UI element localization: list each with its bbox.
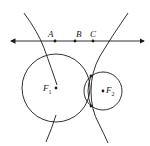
label-f2: F2 [106,86,115,97]
diagram-canvas: A B C F1 F2 [0,0,150,146]
label-b: B [76,30,82,39]
label-c: C [90,30,96,39]
point-c [92,40,95,43]
intersection-top [90,75,93,78]
hyperbola-left-branch [24,13,57,85]
point-a [54,40,57,43]
hyperbola-right-branch [91,13,128,143]
focus-f1 [55,87,58,90]
label-f1-subscript: 1 [49,89,52,95]
intersection-bottom [90,105,93,108]
point-b [74,40,77,43]
focus-f2 [102,90,105,93]
hyperbola-left-branch-lower [46,115,56,142]
diagram-svg [0,0,150,146]
label-f1: F1 [43,84,52,95]
label-f2-subscript: 2 [112,91,115,97]
label-a: A [48,30,54,39]
